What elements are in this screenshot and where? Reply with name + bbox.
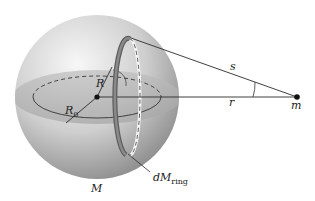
label-M: M — [90, 182, 103, 195]
label-s: s — [230, 60, 236, 73]
label-dM-ring: dMring — [153, 171, 188, 186]
label-m: m — [291, 99, 301, 112]
label-dM-sub: ring — [171, 177, 188, 186]
sphere-center-point — [94, 94, 99, 99]
label-dM-main: dM — [153, 171, 172, 184]
label-R0-main: R — [64, 104, 73, 117]
label-R0-sub: 0 — [73, 110, 78, 119]
label-R: R — [95, 77, 104, 90]
label-r: r — [229, 96, 235, 109]
angle-arc-m — [253, 82, 255, 97]
sphere-ring-gravity-diagram: s r m R R0 M dMring — [0, 0, 315, 201]
